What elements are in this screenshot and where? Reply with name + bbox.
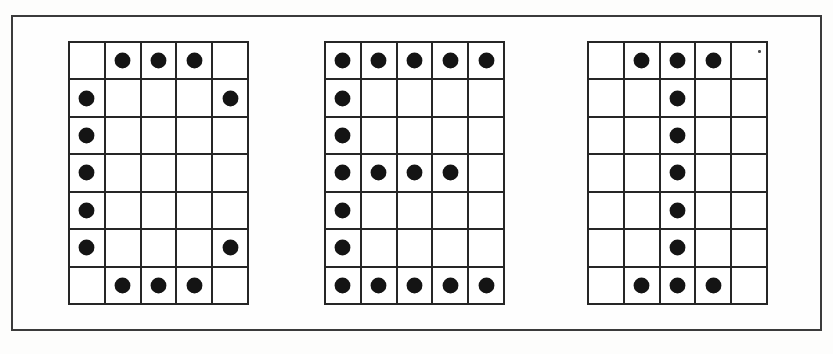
- grid-cell: [142, 268, 178, 305]
- matrix-dot: [151, 278, 166, 293]
- matrix-dot: [79, 203, 94, 218]
- matrix-dot: [223, 91, 238, 106]
- grid-cell: [177, 80, 213, 117]
- grid-cell: [142, 230, 178, 267]
- grid-cell: [106, 118, 142, 155]
- grid-cell: [433, 80, 469, 117]
- matrix-dot: [407, 278, 422, 293]
- grid-cell: [142, 155, 178, 192]
- grid-cell: [326, 268, 362, 305]
- matrix-dot: [187, 278, 202, 293]
- matrix-dot: [670, 203, 685, 218]
- grid-cell: [142, 80, 178, 117]
- matrix-dot: [223, 240, 238, 255]
- grid-cell: [398, 43, 434, 80]
- grid-cell: [696, 268, 732, 305]
- grid-cell: [213, 193, 249, 230]
- matrix-dot: [670, 53, 685, 68]
- grid-cell: [732, 230, 768, 267]
- grid-cell: [433, 155, 469, 192]
- grid-cell: [362, 43, 398, 80]
- grid-cell: [589, 43, 625, 80]
- grid-cell: [732, 268, 768, 305]
- matrix-dot: [407, 53, 422, 68]
- matrix-dot: [634, 278, 649, 293]
- grid-cell: [696, 230, 732, 267]
- grid-cell: [106, 193, 142, 230]
- grid-cell: [469, 193, 505, 230]
- matrix-dot: [335, 91, 350, 106]
- grid-cell: [625, 155, 661, 192]
- grid-cell: [625, 43, 661, 80]
- grid-cell: [362, 230, 398, 267]
- grid-cell: [142, 43, 178, 80]
- grid-cell: [469, 230, 505, 267]
- matrix-dot: [443, 165, 458, 180]
- matrix-dot: [670, 240, 685, 255]
- matrix-dot: [151, 53, 166, 68]
- grid-cell: [70, 80, 106, 117]
- matrix-dot: [670, 128, 685, 143]
- grid-cell: [661, 118, 697, 155]
- grid-cell: [625, 230, 661, 267]
- grid-cell: [625, 80, 661, 117]
- grid-cell: [70, 230, 106, 267]
- matrix-dot: [335, 165, 350, 180]
- grid-cell: [398, 118, 434, 155]
- grid-cell: [661, 43, 697, 80]
- grid-cell: [433, 43, 469, 80]
- grid-cell: [696, 43, 732, 80]
- grid-cell: [326, 193, 362, 230]
- grid-cell: [326, 155, 362, 192]
- grid-cell: [589, 155, 625, 192]
- grid-cell: [362, 155, 398, 192]
- grid-cell: [589, 268, 625, 305]
- grid-cell: [469, 268, 505, 305]
- grid-cell: [362, 80, 398, 117]
- grid-cell: [177, 43, 213, 80]
- grid-i: [587, 41, 768, 305]
- grid-cell: [433, 268, 469, 305]
- matrix-dot: [443, 278, 458, 293]
- matrix-dot: [371, 165, 386, 180]
- grid-cell: [469, 43, 505, 80]
- grid-cell: [589, 80, 625, 117]
- matrix-dot: [79, 128, 94, 143]
- grid-cell: [732, 80, 768, 117]
- grid-e: [324, 41, 505, 305]
- grid-cell: [696, 118, 732, 155]
- grid-cell: [106, 43, 142, 80]
- grid-cell: [177, 155, 213, 192]
- grid-cell: [696, 193, 732, 230]
- grid-cell: [70, 155, 106, 192]
- matrix-dot: [670, 165, 685, 180]
- matrix-dot: [371, 53, 386, 68]
- grid-cell: [625, 118, 661, 155]
- grid-cell: [326, 118, 362, 155]
- matrix-dot: [79, 240, 94, 255]
- matrix-dot: [79, 165, 94, 180]
- grid-cell: [362, 193, 398, 230]
- grid-cell: [106, 80, 142, 117]
- matrix-dot: [335, 53, 350, 68]
- grid-cell: [177, 118, 213, 155]
- matrix-dot: [115, 278, 130, 293]
- grid-cell: [661, 230, 697, 267]
- grid-cell: [589, 230, 625, 267]
- grid-cell: [469, 118, 505, 155]
- matrix-dot: [371, 278, 386, 293]
- dot-matrix-grid-row: [0, 0, 833, 354]
- grid-cell: [177, 193, 213, 230]
- grid-cell: [732, 118, 768, 155]
- matrix-dot: [634, 53, 649, 68]
- grid-cell: [142, 193, 178, 230]
- matrix-dot: [479, 53, 494, 68]
- grid-cell: [696, 80, 732, 117]
- grid-cell: [213, 43, 249, 80]
- grid-cell: [433, 193, 469, 230]
- grid-cell: [732, 43, 768, 80]
- grid-cell: [732, 155, 768, 192]
- matrix-dot: [335, 128, 350, 143]
- grid-cell: [177, 230, 213, 267]
- matrix-dot: [407, 165, 422, 180]
